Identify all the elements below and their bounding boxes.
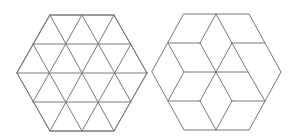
triangle-grid-hexagon (17, 15, 147, 131)
interior-edge (168, 72, 184, 101)
interior-edge (200, 101, 216, 130)
rhombus-star-hexagon (152, 14, 281, 130)
interior-edge (216, 43, 232, 72)
interior-edge (216, 14, 232, 43)
interior-edge (200, 43, 216, 72)
interior-edge (168, 43, 184, 72)
interior-edge (200, 72, 216, 101)
interior-edge (216, 101, 232, 130)
interior-edge (216, 72, 232, 101)
interior-edge (232, 43, 248, 72)
interior-edge (248, 72, 265, 101)
diagram-svg (0, 0, 298, 140)
figure-canvas (0, 0, 298, 140)
interior-edge (200, 14, 216, 43)
